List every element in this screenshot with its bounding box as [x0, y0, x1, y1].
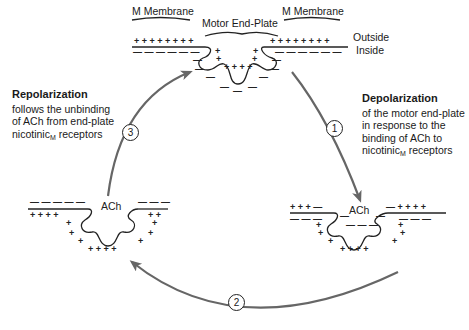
step-3-badge: 3	[122, 124, 139, 141]
m-membrane-right-label: M Membrane	[282, 5, 344, 17]
svg-text:— — —: — — —	[138, 197, 170, 207]
depolarization-title: Depolarization	[362, 92, 465, 105]
arrow-bottom	[132, 262, 398, 308]
svg-text:+: +	[78, 236, 83, 246]
repolarization-title: Repolarization	[12, 88, 114, 101]
svg-text:+ + + +: + + + +	[340, 244, 369, 254]
svg-text:+: +	[138, 236, 143, 246]
svg-text:+ + + +: + + + +	[224, 62, 253, 72]
svg-text:—: —	[220, 82, 229, 92]
outside-label: Outside	[353, 31, 389, 43]
svg-text:+: +	[400, 228, 405, 238]
svg-text:+ + + +: + + + +	[88, 244, 117, 254]
svg-text:—: —	[206, 72, 215, 82]
svg-text:—: —	[248, 82, 257, 92]
m-membrane-left-label: M Membrane	[132, 5, 194, 17]
step-1-badge: 1	[326, 120, 343, 137]
svg-text:— — — — —: — — — — —	[30, 197, 85, 207]
svg-text:+: +	[392, 236, 397, 246]
svg-text:— — —: — — —	[399, 214, 431, 224]
depolarization-description: Depolarization of the motor end-plate in…	[362, 92, 465, 161]
svg-text:+ + + + + + + +: + + + + + + + +	[134, 36, 194, 46]
repolarization-description: Repolarization follows the unbinding of …	[12, 88, 114, 144]
svg-text:— + + + +: — + + + +	[386, 202, 426, 212]
svg-text:+: +	[216, 54, 221, 64]
svg-text:+ + + —: + + + —	[290, 202, 322, 212]
svg-text:+: +	[252, 54, 257, 64]
svg-text:—: —	[233, 86, 242, 96]
svg-text:—: —	[270, 64, 279, 74]
ach-label-left: ACh	[101, 200, 122, 212]
arrow-repolarization	[108, 72, 190, 196]
svg-text:+ + + +: + + + +	[30, 210, 59, 220]
svg-text:+: +	[148, 228, 153, 238]
motor-end-plate-label: Motor End-Plate	[202, 17, 278, 29]
step-2-badge: 2	[228, 294, 245, 311]
ach-label-right: ACh	[349, 204, 370, 216]
svg-text:—: —	[195, 64, 204, 74]
inside-label: Inside	[356, 44, 384, 56]
top-membrane: + + + + + + + + + + + + + + + + ++ ++ + …	[132, 18, 348, 97]
left-membrane: — — — — — — — — + + + + + + ++ ++ ++ + +…	[28, 197, 170, 254]
svg-text:+: +	[152, 218, 157, 228]
right-membrane: + + + — — + + + + — — — — — — —— — — — +…	[290, 202, 446, 254]
svg-text:+ + + + + + + +: + + + + + + + +	[270, 36, 330, 46]
svg-text:+: +	[328, 236, 333, 246]
svg-text:— — —: — — —	[346, 220, 378, 230]
svg-text:— — — — — —: — — — — — —	[275, 47, 342, 57]
arrow-depolarization	[292, 72, 360, 200]
svg-text:+: +	[66, 218, 71, 228]
svg-text:+: +	[69, 228, 74, 238]
svg-text:— — — — — —: — — — — — —	[133, 47, 200, 57]
diagram-canvas: + + + + + + + + + + + + + + + + ++ ++ + …	[0, 0, 469, 330]
svg-text:+: +	[318, 228, 323, 238]
svg-text:—: —	[259, 72, 268, 82]
